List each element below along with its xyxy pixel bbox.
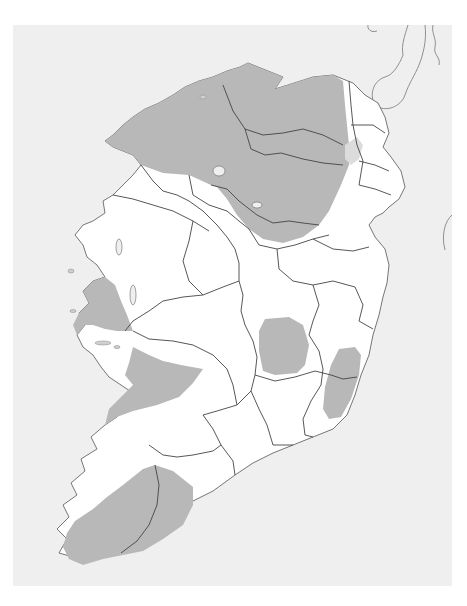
map-caption	[62, 598, 402, 606]
shaded-midlands	[259, 317, 309, 375]
ireland-map	[13, 25, 452, 586]
map-frame	[13, 25, 452, 586]
